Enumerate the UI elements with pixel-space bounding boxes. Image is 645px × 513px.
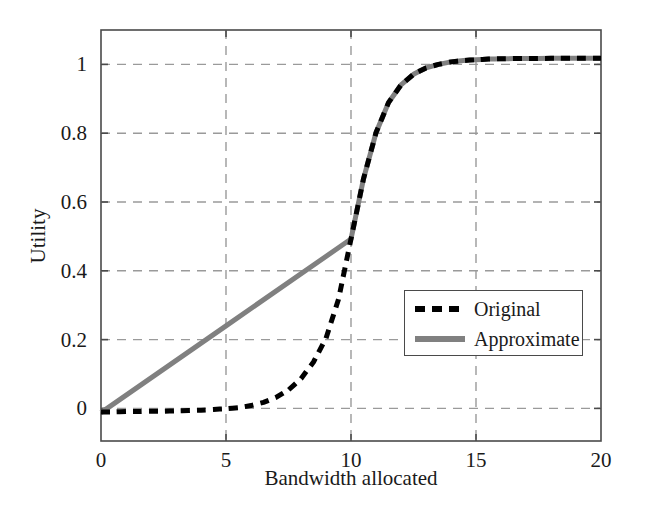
ytick-label: 0.2	[49, 329, 87, 350]
legend-item-original: Original	[405, 294, 582, 324]
chart-figure: 1 0.8 0.6 0.4 0.2 0 0 5 10 15 20 Bandwid…	[0, 0, 645, 513]
legend-item-approximate: Approximate	[405, 324, 582, 354]
ytick-label: 0.8	[49, 123, 87, 144]
xtick-label: 15	[466, 450, 487, 471]
xtick-label: 20	[591, 450, 612, 471]
legend-label-original: Original	[474, 299, 541, 319]
plot-canvas	[0, 0, 645, 513]
legend-label-approximate: Approximate	[474, 329, 580, 349]
ytick-label: 0.4	[49, 260, 87, 281]
xtick-label: 5	[221, 450, 232, 471]
chart-legend: Original Approximate	[404, 290, 583, 356]
ytick-label: 0.6	[49, 192, 87, 213]
x-axis-label: Bandwidth allocated	[264, 466, 437, 491]
legend-key-solid-line	[414, 332, 466, 346]
ytick-label: 0	[49, 398, 87, 419]
legend-key-dashed-line	[414, 302, 466, 316]
ytick-label: 1	[49, 54, 87, 75]
xtick-label: 0	[96, 450, 107, 471]
y-axis-label: Utility	[26, 209, 51, 264]
